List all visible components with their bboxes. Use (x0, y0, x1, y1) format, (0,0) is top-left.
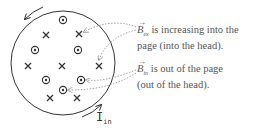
dot-center (77, 49, 79, 51)
dot-center (62, 89, 64, 91)
dot-center (34, 49, 36, 51)
dot-center (80, 79, 82, 81)
b-ex-line2: page (into the head). (137, 40, 223, 51)
b-ex-pointer-1 (84, 23, 136, 32)
b-in-label: →Bin is out of the page (out of the head… (137, 63, 223, 91)
b-ex-pointer-2 (99, 30, 136, 60)
into-page-cross-icon (47, 95, 53, 101)
dot-center (45, 79, 47, 81)
field-symbols (25, 16, 102, 101)
head-loop-circle (11, 11, 115, 115)
dot-center (62, 19, 64, 21)
b-in-pointer-1 (86, 70, 136, 80)
into-page-cross-icon (76, 31, 82, 37)
current-label: Iin (96, 110, 112, 126)
b-in-symbol: →Bin (137, 63, 148, 74)
b-ex-line1: is increasing into the (149, 24, 239, 35)
into-page-cross-icon (43, 32, 49, 38)
b-in-line2: (out of the head). (137, 79, 209, 90)
circulation-arrow-top (25, 7, 43, 19)
b-ex-symbol: →Bex (137, 24, 149, 35)
b-in-line1: is out of the page (148, 63, 223, 74)
into-page-cross-icon (59, 63, 65, 69)
into-page-cross-icon (96, 63, 102, 69)
into-page-cross-icon (25, 63, 31, 69)
b-ex-label: →Bex is increasing into the page (into t… (137, 24, 239, 52)
into-page-cross-icon (74, 95, 80, 101)
